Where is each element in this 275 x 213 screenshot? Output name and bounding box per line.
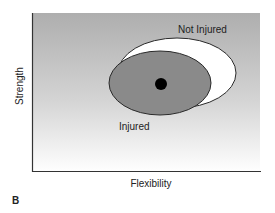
x-axis-label: Flexibility bbox=[130, 178, 171, 189]
panel-label: B bbox=[12, 195, 19, 206]
injured-label: Injured bbox=[119, 121, 150, 132]
y-axis-label: Strength bbox=[14, 67, 25, 105]
figure: Not Injured Injured Strength Flexibility… bbox=[0, 0, 275, 213]
not-injured-label: Not Injured bbox=[178, 24, 227, 35]
centroid-dot bbox=[155, 78, 167, 90]
